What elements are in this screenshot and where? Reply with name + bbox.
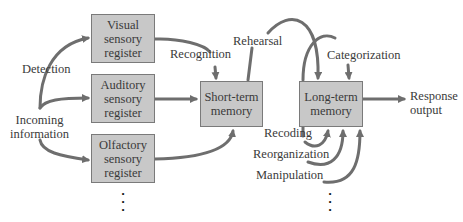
- short-term-memory: Short-term memory: [200, 81, 263, 127]
- rehearsal-label: Rehearsal: [233, 34, 282, 48]
- detection-label: Detection: [22, 62, 71, 76]
- sensory-ellipsis: • • •: [118, 190, 128, 214]
- long-term-memory-label: Long-term memory: [304, 90, 357, 118]
- olfactory-sensory-register-label: Olfactory sensory register: [99, 138, 147, 180]
- reorganization-label: Reorganization: [253, 147, 329, 161]
- olfactory-sensory-register: Olfactory sensory register: [91, 134, 155, 183]
- ltm-manipulation-ellipsis: • • •: [325, 190, 335, 214]
- visual-sensory-register: Visual sensory register: [91, 14, 155, 63]
- response-output-label: Response output: [410, 89, 458, 117]
- visual-sensory-register-label: Visual sensory register: [104, 18, 142, 60]
- auditory-sensory-register-label: Auditory sensory register: [100, 78, 145, 120]
- short-term-memory-label: Short-term memory: [204, 90, 258, 118]
- manipulation-label: Manipulation: [256, 168, 323, 182]
- categorization-label: Categorization: [327, 48, 401, 62]
- recognition-label: Recognition: [170, 47, 231, 61]
- auditory-sensory-register: Auditory sensory register: [91, 74, 155, 123]
- long-term-memory: Long-term memory: [299, 81, 363, 127]
- recoding-label: Recoding: [264, 126, 312, 140]
- incoming-information-label: Incoming information: [10, 113, 69, 141]
